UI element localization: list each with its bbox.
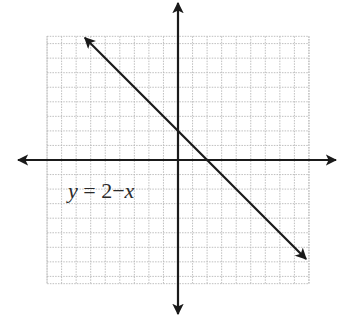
- equation-var-x: x: [124, 178, 135, 203]
- equation-label: y = 2−x: [66, 178, 135, 203]
- line-y-equals-2-minus-x: [85, 38, 306, 259]
- plotted-line: [85, 38, 306, 259]
- equation-middle: = 2−: [78, 178, 125, 203]
- equation-var-y: y: [66, 178, 78, 203]
- axes: [18, 3, 336, 314]
- coordinate-plane: y = 2−x: [0, 0, 338, 321]
